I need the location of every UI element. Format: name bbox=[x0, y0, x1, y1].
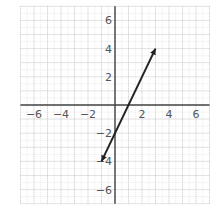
axes bbox=[21, 6, 210, 203]
x-tick-label: 4 bbox=[166, 108, 173, 121]
x-tick-label: −4 bbox=[53, 108, 69, 121]
coordinate-plane: −6−4−2246 642−2−4−6 bbox=[0, 0, 217, 211]
x-tick-label: 6 bbox=[193, 108, 200, 121]
y-tick-label: −6 bbox=[96, 184, 112, 197]
x-tick-label: −2 bbox=[80, 108, 96, 121]
x-tick-label: −6 bbox=[26, 108, 42, 121]
y-tick-label: −2 bbox=[96, 127, 112, 140]
x-tick-label: 2 bbox=[139, 108, 146, 121]
y-tick-label: 6 bbox=[105, 14, 112, 27]
y-tick-label: 4 bbox=[105, 43, 112, 56]
y-tick-label: 2 bbox=[105, 71, 112, 84]
